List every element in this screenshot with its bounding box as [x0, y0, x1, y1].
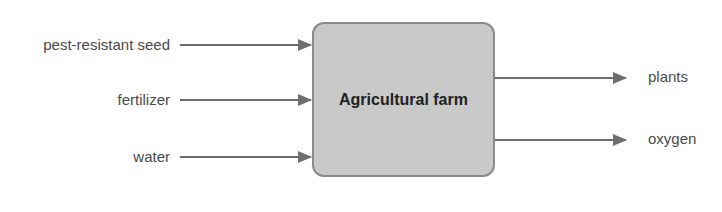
process-box: Agricultural farm [312, 22, 495, 177]
process-label: Agricultural farm [339, 89, 469, 110]
input-label-pest-resistant-seed: pest-resistant seed [0, 36, 170, 54]
output-label-plants: plants [648, 68, 688, 86]
output-label-oxygen: oxygen [648, 130, 696, 148]
input-label-water: water [0, 148, 170, 166]
input-label-fertilizer: fertilizer [0, 91, 170, 109]
